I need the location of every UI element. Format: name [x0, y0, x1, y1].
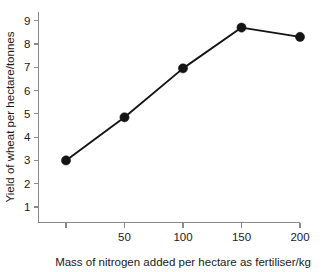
chart-tick-marks [34, 21, 300, 228]
x-axis-tick-label: 200 [290, 231, 309, 243]
x-axis-tick-labels: 50100150200 [118, 231, 309, 243]
x-axis-tick-label: 150 [232, 231, 251, 243]
data-point-marker [61, 156, 70, 165]
chart-axes [39, 12, 301, 223]
data-point-marker [120, 113, 129, 122]
y-axis-tick-label: 1 [24, 201, 30, 213]
data-point-marker [295, 32, 304, 41]
x-axis-title: Mass of nitrogen added per hectare as fe… [55, 256, 311, 268]
y-axis-tick-label: 2 [24, 178, 30, 190]
data-series-wheat-yield [61, 23, 304, 165]
data-point-marker [237, 23, 246, 32]
y-axis-tick-label: 5 [24, 108, 30, 120]
series-line-path [66, 28, 300, 161]
y-axis-tick-label: 3 [24, 154, 30, 166]
y-axis-tick-labels: 123456789 [24, 15, 31, 213]
line-chart: 123456789 50100150200 Mass of nitrogen a… [0, 0, 322, 272]
chart-container: 123456789 50100150200 Mass of nitrogen a… [0, 0, 322, 272]
y-axis-title: Yield of wheat per hectare/tonnes [4, 31, 16, 202]
y-axis-tick-label: 7 [24, 61, 30, 73]
x-axis-tick-label: 50 [118, 231, 131, 243]
y-axis-tick-label: 8 [24, 38, 30, 50]
y-axis-tick-label: 9 [24, 15, 30, 27]
y-axis-tick-label: 6 [24, 85, 30, 97]
y-axis-tick-label: 4 [24, 131, 31, 143]
x-axis-tick-label: 100 [173, 231, 192, 243]
data-point-marker [178, 64, 187, 73]
